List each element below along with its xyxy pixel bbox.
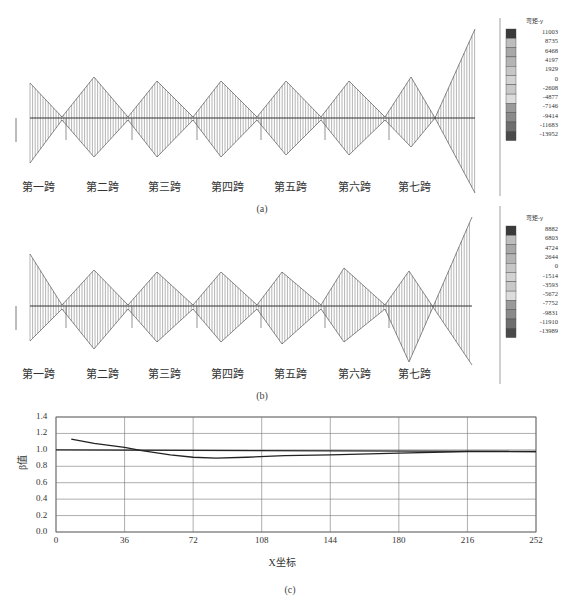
y-axis-title: β值	[14, 455, 29, 470]
y-tick-label: 1.4	[36, 411, 47, 421]
beta-series-line	[71, 439, 536, 458]
caption-c: (c)	[284, 584, 295, 595]
x-tick-label: 252	[529, 535, 543, 545]
y-tick-label: 1.0	[36, 444, 47, 454]
x-tick-label: 216	[461, 535, 475, 545]
x-axis-title: X坐标	[268, 554, 295, 569]
y-tick-label: 0.4	[36, 493, 47, 503]
x-tick-label: 36	[120, 535, 129, 545]
x-tick-label: 0	[54, 535, 59, 545]
beta-line-chart	[0, 0, 566, 603]
x-tick-label: 108	[255, 535, 269, 545]
x-tick-label: 72	[189, 535, 198, 545]
y-tick-label: 0.2	[36, 510, 47, 520]
y-tick-label: 0.8	[36, 460, 47, 470]
y-tick-label: 0.6	[36, 477, 47, 487]
y-tick-label: 0.0	[36, 526, 47, 536]
y-tick-label: 1.2	[36, 427, 47, 437]
beta-chart: 0.00.20.40.60.81.01.21.40367210814418021…	[0, 0, 566, 603]
x-tick-label: 180	[392, 535, 406, 545]
x-tick-label: 144	[324, 535, 338, 545]
plot-frame	[56, 417, 536, 532]
